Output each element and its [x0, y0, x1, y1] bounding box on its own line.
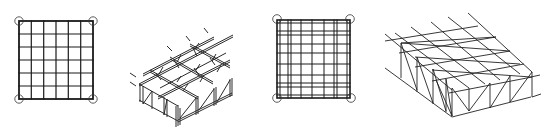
structural-grid-figure	[0, 0, 546, 137]
panel-d-isometric-space-frame	[385, 13, 541, 117]
panel-b-isometric-truss-grid	[130, 28, 233, 127]
panel-a-plan-grid	[15, 17, 97, 103]
panel-c-plan-grid-paired	[273, 15, 356, 103]
